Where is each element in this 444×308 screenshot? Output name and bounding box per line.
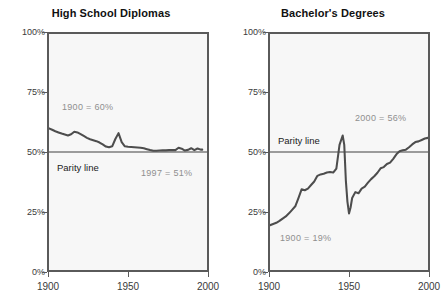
- y-tick-label-25-right: 25%: [226, 207, 266, 217]
- annotation-left-1900: 1900 = 60%: [62, 102, 113, 112]
- plot-area-left: Parity line 1900 = 60% 1997 = 51%: [47, 32, 209, 272]
- x-tick-label-1950-left: 1950: [98, 281, 158, 292]
- panel-bachelors-degrees: Bachelor's Degrees 100% 75% 50% 25% 0% P…: [222, 0, 444, 308]
- series-line-right: [270, 135, 428, 225]
- x-tick-label-2000-right: 2000: [399, 281, 444, 292]
- y-tick-label-100-right: 100%: [226, 27, 266, 37]
- x-tick-label-1900-right: 1900: [239, 281, 299, 292]
- y-axis-right: 100% 75% 50% 25% 0%: [222, 0, 266, 308]
- y-tick-label-50: 50%: [5, 147, 45, 157]
- x-tick-mark-2000-left: [208, 272, 209, 277]
- panel-high-school-diplomas: High School Diplomas 100% 75% 50% 25% 0%…: [0, 0, 222, 308]
- parity-line-label-left: Parity line: [57, 162, 99, 173]
- parity-line-label-right: Parity line: [278, 135, 320, 146]
- y-tick-label-75: 75%: [5, 87, 45, 97]
- y-tick-mark-0-right: [263, 272, 268, 273]
- y-tick-label-50-right: 50%: [226, 147, 266, 157]
- y-tick-label-25: 25%: [5, 207, 45, 217]
- x-tick-mark-2000-right: [429, 272, 430, 277]
- plot-area-right: Parity line 2000 = 56% 1900 = 19%: [268, 32, 430, 272]
- y-axis-left: 100% 75% 50% 25% 0%: [0, 0, 45, 308]
- x-tick-mark-1900-right: [269, 272, 270, 277]
- x-tick-mark-1950-left: [128, 272, 129, 277]
- y-tick-label-100: 100%: [5, 27, 45, 37]
- x-tick-label-1950-right: 1950: [319, 281, 379, 292]
- annotation-right-1900: 1900 = 19%: [280, 233, 331, 243]
- y-tick-label-75-right: 75%: [226, 87, 266, 97]
- y-tick-label-0-right: 0%: [226, 267, 266, 277]
- annotation-left-1997: 1997 = 51%: [141, 168, 192, 178]
- x-tick-mark-1950-right: [349, 272, 350, 277]
- plot-svg-left: [49, 34, 207, 270]
- y-tick-mark-0: [42, 272, 47, 273]
- figure-two-panel-chart: High School Diplomas 100% 75% 50% 25% 0%…: [0, 0, 444, 308]
- annotation-right-2000: 2000 = 56%: [355, 113, 406, 123]
- x-tick-mark-1900-left: [48, 272, 49, 277]
- x-tick-label-1900-left: 1900: [18, 281, 78, 292]
- y-tick-label-0: 0%: [5, 267, 45, 277]
- series-line-left: [49, 128, 202, 150]
